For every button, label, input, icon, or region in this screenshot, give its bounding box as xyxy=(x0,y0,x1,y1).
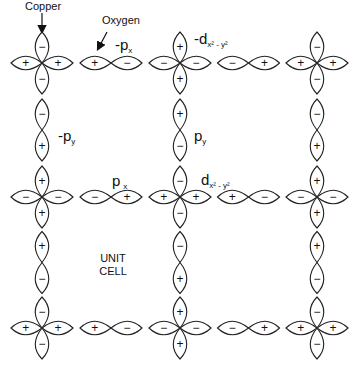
minus-sign: − xyxy=(313,272,320,286)
plus-sign: + xyxy=(330,56,337,70)
pointer-arrows xyxy=(42,13,107,49)
orbital-label-sub: y xyxy=(71,137,75,146)
minus-sign: − xyxy=(124,56,131,70)
minus-sign: − xyxy=(160,321,167,335)
oxygen-arrow-icon xyxy=(98,32,107,49)
minus-sign: − xyxy=(313,337,320,351)
plus-sign: + xyxy=(313,206,320,220)
minus-sign: − xyxy=(124,321,131,335)
orbital-label-py: py xyxy=(194,128,206,146)
minus-sign: − xyxy=(38,107,45,121)
plus-sign: + xyxy=(38,206,45,220)
minus-sign: − xyxy=(176,239,183,253)
plus-sign: + xyxy=(176,305,183,319)
cuo2-plane-orbital-diagram: −−++++−−−−++++−−−−++++−−−−++++−−−−+++−−+… xyxy=(0,0,360,368)
minus-sign: − xyxy=(38,72,45,86)
minus-sign: − xyxy=(313,40,320,54)
plus-sign: + xyxy=(313,139,320,153)
unit-cell-label: UNIT CELL xyxy=(95,252,131,278)
orbital-label-dx2y2: dx² - y² xyxy=(201,172,230,190)
minus-sign: − xyxy=(176,174,183,188)
minus-sign: − xyxy=(313,72,320,86)
minus-sign: − xyxy=(229,321,236,335)
minus-sign: − xyxy=(38,272,45,286)
minus-sign: − xyxy=(38,337,45,351)
minus-sign: − xyxy=(176,139,183,153)
minus-sign: − xyxy=(229,56,236,70)
minus-sign: − xyxy=(176,206,183,220)
minus-sign: − xyxy=(193,56,200,70)
plus-sign: + xyxy=(55,321,62,335)
plus-sign: + xyxy=(229,190,236,204)
minus-sign: − xyxy=(313,305,320,319)
plus-sign: + xyxy=(297,56,304,70)
orbital-label-sub: x xyxy=(128,46,132,55)
plus-sign: + xyxy=(176,107,183,121)
plus-sign: + xyxy=(38,174,45,188)
plus-sign: + xyxy=(124,190,131,204)
minus-sign: − xyxy=(55,190,62,204)
orbital-label-sub: y xyxy=(202,137,206,146)
orbital-label-px: px xyxy=(112,173,127,191)
minus-sign: − xyxy=(91,190,98,204)
plus-sign: + xyxy=(313,239,320,253)
plus-sign: + xyxy=(176,40,183,54)
orbital-label-main: p xyxy=(112,172,120,189)
orbital-label-neg-dx2y2: -dx² - y² xyxy=(194,31,228,49)
plus-sign: + xyxy=(38,239,45,253)
plus-sign: + xyxy=(91,56,98,70)
minus-sign: − xyxy=(297,190,304,204)
orbital-label-neg-py: -py xyxy=(58,128,75,146)
plus-sign: + xyxy=(176,337,183,351)
plus-sign: + xyxy=(176,272,183,286)
plus-sign: + xyxy=(22,321,29,335)
orbital-label-sub: x xyxy=(123,182,127,191)
minus-sign: − xyxy=(22,190,29,204)
minus-sign: − xyxy=(193,321,200,335)
orbital-label-main: -p xyxy=(58,127,71,144)
minus-sign: − xyxy=(38,40,45,54)
unit-cell-line2: CELL xyxy=(95,265,131,278)
orbital-label-main: -p xyxy=(115,36,128,53)
orbital-label-sub: x² - y² xyxy=(207,40,227,49)
orbital-lobes: −−++++−−−−++++−−−−++++−−−−++++−−−−+++−−+… xyxy=(11,32,348,359)
plus-sign: + xyxy=(91,321,98,335)
minus-sign: − xyxy=(261,190,268,204)
orbital-label-main: -d xyxy=(194,30,207,47)
plus-sign: + xyxy=(261,321,268,335)
plus-sign: + xyxy=(38,139,45,153)
plus-sign: + xyxy=(22,56,29,70)
orbital-label-neg-px: -px xyxy=(115,37,132,55)
orbital-label-sub: x² - y² xyxy=(209,181,229,190)
plus-sign: + xyxy=(55,56,62,70)
plus-sign: + xyxy=(160,190,167,204)
minus-sign: − xyxy=(313,107,320,121)
minus-sign: − xyxy=(330,190,337,204)
oxygen-label: Oxygen xyxy=(102,15,140,26)
unit-cell-line1: UNIT xyxy=(95,252,131,265)
plus-sign: + xyxy=(313,174,320,188)
plus-sign: + xyxy=(330,321,337,335)
minus-sign: − xyxy=(38,305,45,319)
plus-sign: + xyxy=(193,190,200,204)
plus-sign: + xyxy=(176,72,183,86)
plus-sign: + xyxy=(297,321,304,335)
minus-sign: − xyxy=(160,56,167,70)
copper-label: Copper xyxy=(25,1,61,12)
plus-sign: + xyxy=(261,56,268,70)
